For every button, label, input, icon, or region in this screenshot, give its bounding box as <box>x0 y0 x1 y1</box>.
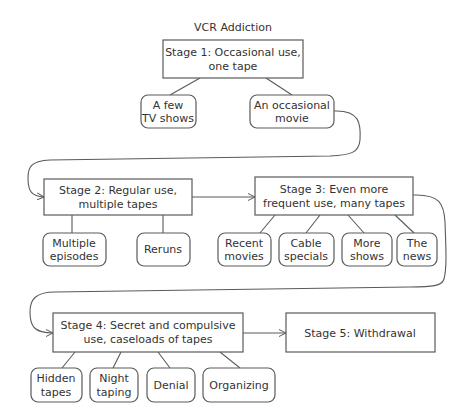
svg-text:tapes: tapes <box>41 386 72 399</box>
stage-1-line-2: one tape <box>209 60 258 73</box>
svg-text:TV shows: TV shows <box>141 112 194 125</box>
leaf-night-taping: Night taping <box>90 368 138 402</box>
stage-2-box: Stage 2: Regular use, multiple tapes <box>44 179 192 215</box>
stage-3-box: Stage 3: Even more frequent use, many ta… <box>255 177 413 215</box>
svg-text:taping: taping <box>96 386 131 399</box>
connector <box>113 352 121 368</box>
diagram-title: VCR Addiction <box>194 21 272 34</box>
stage-4-box: Stage 4: Secret and compulsive use, case… <box>53 313 243 352</box>
stage-5-line-1: Stage 5: Withdrawal <box>304 327 416 340</box>
leaf-an-occasional-movie: An occasional movie <box>250 95 334 128</box>
svg-text:movies: movies <box>224 250 264 263</box>
svg-text:Hidden: Hidden <box>36 372 75 385</box>
connector <box>306 215 320 233</box>
connector <box>266 78 292 95</box>
stage-5-box: Stage 5: Withdrawal <box>286 313 435 352</box>
svg-text:Organizing: Organizing <box>209 379 269 392</box>
svg-text:More: More <box>353 237 381 250</box>
leaf-recent-movies: Recent movies <box>218 233 271 266</box>
stage-2-line-2: multiple tapes <box>79 198 158 211</box>
svg-text:Multiple: Multiple <box>52 237 96 250</box>
leaf-a-few-tv-shows: A few TV shows <box>141 95 196 128</box>
svg-text:The: The <box>406 237 428 250</box>
svg-text:movie: movie <box>275 112 309 125</box>
connector <box>260 215 275 233</box>
leaf-more-shows: More shows <box>342 233 392 266</box>
leaf-multiple-episodes: Multiple episodes <box>43 233 106 266</box>
svg-text:Denial: Denial <box>153 379 188 392</box>
stage-2-line-1: Stage 2: Regular use, <box>59 184 177 197</box>
svg-text:A few: A few <box>153 99 184 112</box>
leaf-cable-specials: Cable specials <box>279 233 334 266</box>
svg-text:news: news <box>403 250 432 263</box>
stage-1-line-1: Stage 1: Occasional use, <box>165 46 301 59</box>
stage-4-line-2: use, caseloads of tapes <box>83 333 212 346</box>
connector <box>170 78 200 95</box>
svg-text:An occasional: An occasional <box>254 99 330 112</box>
connector <box>158 352 170 368</box>
stage-3-line-2: frequent use, many tapes <box>263 197 405 210</box>
leaf-the-news: The news <box>397 233 437 266</box>
leaf-reruns: Reruns <box>137 233 190 266</box>
stage-3-line-1: Stage 3: Even more <box>280 183 389 196</box>
svg-text:specials: specials <box>284 250 328 263</box>
stage-4-line-1: Stage 4: Secret and compulsive <box>61 319 236 332</box>
leaf-denial: Denial <box>147 368 195 402</box>
svg-text:Reruns: Reruns <box>144 243 182 256</box>
leaf-hidden-tapes: Hidden tapes <box>31 368 82 402</box>
svg-text:shows: shows <box>350 250 384 263</box>
connector <box>348 215 364 233</box>
leaf-organizing: Organizing <box>203 368 275 402</box>
connector <box>62 352 75 368</box>
svg-text:episodes: episodes <box>50 250 99 263</box>
connector <box>395 215 414 233</box>
vcr-addiction-diagram: VCR Addiction Stage 1: Occasional use, o… <box>0 0 464 418</box>
svg-text:Recent: Recent <box>225 237 264 250</box>
svg-text:Cable: Cable <box>290 237 321 250</box>
stage-1-box: Stage 1: Occasional use, one tape <box>163 40 303 78</box>
svg-text:Night: Night <box>99 372 129 385</box>
connector <box>220 352 240 368</box>
